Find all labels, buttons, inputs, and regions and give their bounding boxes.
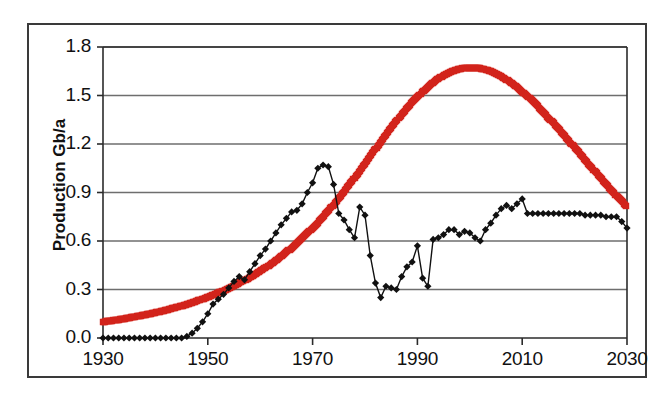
y-axis-tick-marks [97, 47, 103, 338]
series-historical-data [99, 161, 630, 341]
series-model-curve [100, 65, 629, 325]
chart-figure: Production Gb/a 1.81.51.20.90.60.30.0 19… [0, 0, 669, 399]
chart-outer-border: Production Gb/a 1.81.51.20.90.60.30.0 19… [27, 23, 647, 378]
chart-plot-area [29, 25, 645, 376]
